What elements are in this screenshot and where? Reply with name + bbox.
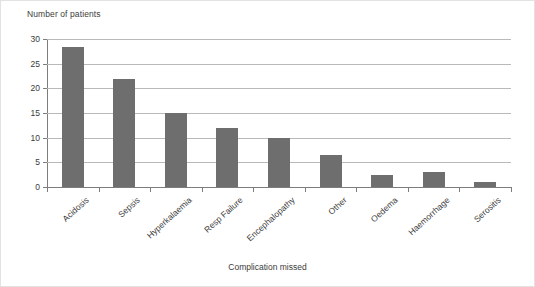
plot-area: 051015202530 AcidosisSepsisHyperkalaemia…: [47, 39, 511, 187]
x-tick-mark: [253, 187, 254, 192]
bar: [113, 79, 135, 187]
x-tick-label: Haemorrhage: [406, 195, 451, 237]
x-tick-mark: [408, 187, 409, 192]
bar: [62, 47, 84, 187]
x-tick-label: Encephalopathy: [245, 195, 297, 243]
bar-chart-figure: Number of patients 051015202530 Acidosis…: [0, 0, 535, 287]
bar: [320, 155, 342, 187]
x-tick-label: Sepsis: [116, 195, 142, 220]
x-tick-label: Resp Failure: [203, 195, 246, 235]
x-tick-label: Serositis: [472, 195, 503, 224]
bar: [371, 175, 393, 187]
x-tick-label: Hyperkalaemia: [145, 195, 194, 240]
bar: [165, 113, 187, 187]
x-axis-title: Complication missed: [1, 262, 534, 272]
y-tick-label: 15: [31, 108, 40, 118]
bar: [423, 172, 445, 187]
bar: [216, 128, 238, 187]
y-tick-label: 25: [31, 59, 40, 69]
x-tick-mark: [356, 187, 357, 192]
y-tick-label: 5: [35, 157, 40, 167]
y-tick-label: 30: [31, 34, 40, 44]
bar: [474, 182, 496, 187]
y-axis-title: Number of patients: [27, 9, 101, 19]
gridline: [47, 187, 511, 188]
x-tick-mark: [47, 187, 48, 192]
y-tick-label: 20: [31, 83, 40, 93]
gridline: [47, 64, 511, 65]
x-tick-label: Acidosis: [60, 195, 90, 224]
y-tick-mark: [43, 64, 47, 65]
x-tick-mark: [459, 187, 460, 192]
x-tick-mark: [150, 187, 151, 192]
y-tick-label: 0: [35, 182, 40, 192]
x-tick-label: Oedema: [369, 195, 400, 224]
x-tick-label: Other: [326, 195, 348, 217]
y-tick-mark: [43, 162, 47, 163]
x-tick-mark: [202, 187, 203, 192]
bar: [268, 138, 290, 187]
y-tick-mark: [43, 113, 47, 114]
y-tick-mark: [43, 88, 47, 89]
x-tick-mark: [99, 187, 100, 192]
y-tick-mark: [43, 39, 47, 40]
y-tick-label: 10: [31, 133, 40, 143]
gridline: [47, 39, 511, 40]
x-tick-mark: [305, 187, 306, 192]
y-tick-mark: [43, 138, 47, 139]
x-tick-mark: [511, 187, 512, 192]
